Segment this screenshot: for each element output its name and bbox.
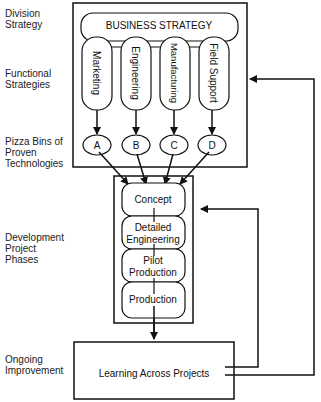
strategy-diagram: BUSINESS STRATEGY Marketing Engineering …: [0, 0, 321, 402]
function-pill-manufacturing: Manufacturing: [160, 37, 190, 110]
svg-text:Detailed: Detailed: [135, 222, 172, 233]
svg-text:A: A: [94, 140, 101, 151]
function-pill-marketing: Marketing: [82, 37, 112, 110]
svg-text:Field Support: Field Support: [208, 43, 219, 103]
bin-b: B: [122, 135, 150, 155]
svg-text:D: D: [208, 140, 215, 151]
svg-text:Engineering: Engineering: [130, 46, 141, 99]
svg-text:Concept: Concept: [134, 194, 171, 205]
svg-text:Marketing: Marketing: [91, 51, 102, 95]
svg-text:Pilot: Pilot: [143, 255, 163, 266]
bin-c: C: [160, 135, 188, 155]
svg-text:Manufacturing: Manufacturing: [169, 43, 180, 103]
bin-a: A: [83, 135, 111, 155]
business-strategy-text: BUSINESS STRATEGY: [106, 20, 213, 31]
bin-d: D: [198, 135, 226, 155]
function-pill-field-support: Field Support: [199, 37, 229, 110]
function-pill-engineering: Engineering: [121, 37, 151, 110]
svg-text:Engineering: Engineering: [126, 234, 179, 245]
feedback-to-concept: [201, 209, 258, 367]
svg-text:Production: Production: [129, 294, 177, 305]
svg-text:C: C: [170, 140, 177, 151]
learning-text: Learning Across Projects: [99, 368, 210, 379]
svg-text:Production: Production: [129, 267, 177, 278]
svg-text:B: B: [133, 140, 140, 151]
feedback-to-strategy: [225, 79, 314, 375]
